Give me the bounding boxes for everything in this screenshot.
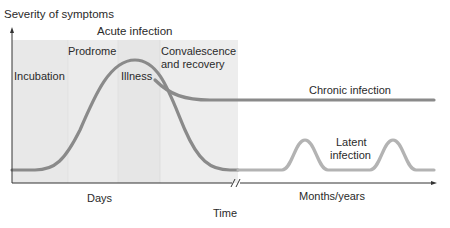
x-segment-months-years-label: Months/years	[299, 190, 365, 203]
latent-infection-label-2: infection	[330, 149, 371, 162]
y-axis-arrow-icon	[10, 27, 14, 33]
prodrome-band	[68, 40, 118, 183]
phase-illness-label: Illness	[121, 70, 152, 83]
phase-prodrome-label: Prodrome	[68, 45, 116, 58]
latent-infection-label: Latent	[336, 136, 367, 149]
x-axis-label: Time	[213, 207, 237, 220]
phase-incubation-label: Incubation	[14, 70, 65, 83]
infection-course-diagram	[0, 0, 450, 228]
phase-convalescence-label-2: and recovery	[161, 58, 225, 71]
x-segment-days-label: Days	[87, 192, 112, 205]
x-axis-arrow-icon	[431, 181, 437, 185]
y-axis-label: Severity of symptoms	[4, 8, 114, 21]
acute-infection-header: Acute infection	[97, 25, 172, 38]
chronic-infection-label: Chronic infection	[309, 84, 391, 97]
phase-convalescence-label: Convalescence	[161, 45, 236, 58]
